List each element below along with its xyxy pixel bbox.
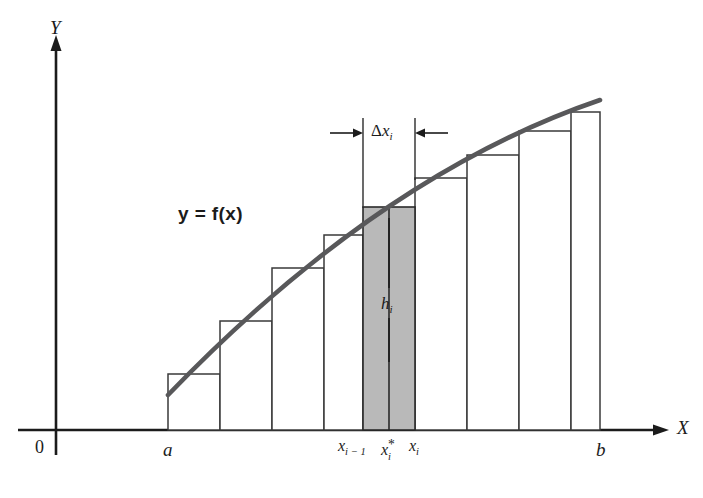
x-axis-label: X xyxy=(677,418,689,437)
figure-container: Y X 0 y = f(x) a b Δxi hi xi − 1 x*i xi xyxy=(0,0,703,498)
tick-label-x-i-star: x*i xyxy=(381,438,391,462)
dim-arrow-right-head xyxy=(415,129,425,138)
tick-right-subscript: i xyxy=(416,446,419,457)
height-subscript: i xyxy=(390,303,393,315)
delta-x-label: Δxi xyxy=(371,122,393,143)
y-axis xyxy=(51,35,62,455)
bar-rect-6 xyxy=(415,178,467,430)
riemann-sum-diagram xyxy=(0,0,703,498)
tick-label-x-i-minus-1: xi − 1 xyxy=(338,438,366,458)
bar-rect-8 xyxy=(519,131,571,430)
height-base: h xyxy=(381,294,390,313)
height-label: hi xyxy=(381,295,393,316)
y-axis-label: Y xyxy=(50,18,61,37)
bar-rect-1 xyxy=(168,374,220,430)
bar-rect-9 xyxy=(571,112,600,430)
delta-symbol: Δ xyxy=(371,121,382,140)
function-label: y = f(x) xyxy=(178,204,243,223)
tick-left-subscript: i − 1 xyxy=(345,446,366,457)
origin-label: 0 xyxy=(35,438,44,456)
delta-subscript: i xyxy=(389,130,392,142)
tick-star-subscript: i xyxy=(388,451,391,462)
bar-rect-7 xyxy=(467,155,519,430)
bar-rect-4 xyxy=(324,235,363,430)
tick-star-superscript: * xyxy=(388,437,395,452)
upper-bound-label: b xyxy=(596,440,606,459)
lower-bound-label: a xyxy=(163,440,173,459)
dim-arrow-left-head xyxy=(353,129,363,138)
tick-label-x-i: xi xyxy=(409,438,419,458)
